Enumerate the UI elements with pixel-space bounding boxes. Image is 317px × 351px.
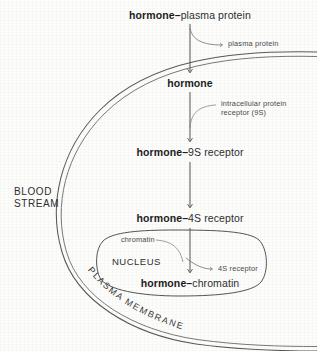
stage-5-bold: hormone [141, 277, 187, 289]
stage-2-bold: hormone [167, 77, 213, 89]
region-nucleus: NUCLEUS [112, 256, 161, 268]
stage-4-bold: hormone [137, 212, 183, 224]
arrow-plasma-protein-to-hormone [190, 24, 222, 72]
region-blood-stream-line2: STREAM [14, 198, 59, 210]
region-blood-stream-line1: BLOOD [14, 186, 59, 198]
stage-1-bold: hormone [129, 9, 175, 21]
diagram-canvas: PLASMA MEMBRANE hormone–plasma protein p… [0, 0, 317, 351]
stage-5-plain: chromatin [192, 277, 239, 289]
plasma-membrane-arc [56, 52, 317, 351]
stage-3-plain: 9S receptor [188, 146, 243, 158]
stage-hormone-9s-receptor: hormone–9S receptor [137, 146, 244, 159]
stage-3-bold: hormone [137, 146, 183, 158]
annotation-plasma-protein: plasma protein [228, 39, 279, 48]
arrow-hormone-to-9s [190, 92, 216, 141]
stage-hormone-chromatin: hormone–chromatin [141, 277, 240, 290]
diagram-vector-layer: PLASMA MEMBRANE [0, 0, 317, 351]
region-blood-stream: BLOOD STREAM [14, 186, 59, 210]
annotation-4s-receptor: 4S receptor [218, 264, 258, 273]
annotation-intracellular-receptor: intracellular protein receptor (9S) [221, 99, 287, 117]
stage-hormone: hormone [167, 77, 213, 90]
stage-hormone-plasma-protein: hormone–plasma protein [129, 9, 251, 22]
annotation-intracellular-receptor-line2: receptor (9S) [221, 108, 287, 117]
annotation-chromatin: chromatin [121, 235, 155, 244]
stage-4-plain: 4S receptor [188, 212, 243, 224]
stage-1-plain: plasma protein [181, 9, 251, 21]
annotation-intracellular-receptor-line1: intracellular protein [221, 99, 287, 108]
stage-hormone-4s-receptor: hormone–4S receptor [137, 212, 244, 225]
